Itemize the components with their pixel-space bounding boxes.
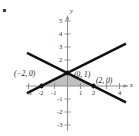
coordinate-plot	[0, 0, 139, 136]
x-tick-label-2: 2	[92, 90, 95, 97]
y-axis-label: y	[70, 8, 73, 15]
x-tick-label--2: -2	[38, 90, 43, 97]
y-axis-arrow	[66, 15, 70, 20]
y-tick-label-5: 5	[59, 18, 62, 25]
y-tick-label--1: -1	[57, 96, 62, 103]
x-tick-label-4: 4	[118, 90, 121, 97]
label-right-intercept: (2, 0)	[96, 77, 112, 85]
figure-canvas: y x -3 -2 -1 1 2 4 5 4 3 2 -1 -2 -3 (−2,…	[0, 0, 139, 136]
point-marker-vertex	[65, 71, 70, 76]
label-vertex: (0, 1)	[74, 71, 90, 79]
y-tick-label--3: -3	[57, 122, 62, 129]
y-tick-label--2: -2	[57, 109, 62, 116]
x-tick-label-1: 1	[79, 90, 82, 97]
label-left-intercept: (−2, 0)	[14, 70, 35, 78]
x-axis-arrow	[124, 84, 129, 88]
point-marker-left-intercept	[39, 84, 43, 88]
y-tick-label-3: 3	[59, 44, 62, 51]
y-tick-label-4: 4	[59, 31, 62, 38]
y-tick-label-2: 2	[59, 57, 62, 64]
x-tick-label--3: -3	[26, 90, 31, 97]
x-tick-label--1: -1	[51, 90, 56, 97]
x-axis-label: x	[130, 82, 133, 89]
